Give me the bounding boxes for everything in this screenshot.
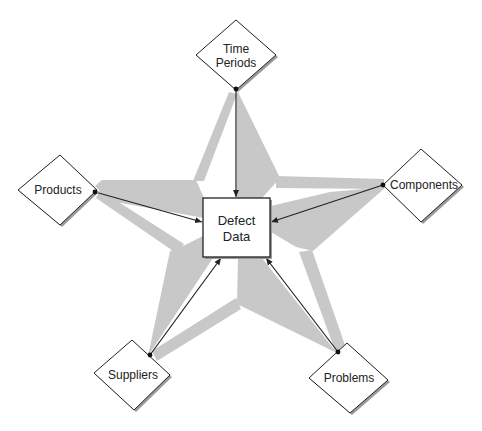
star-arm-right-wide — [271, 187, 386, 251]
defect-data-label-line2: Data — [223, 229, 251, 244]
products-dot — [93, 190, 98, 195]
time-periods-label-line2: Periods — [216, 56, 257, 70]
suppliers-dot — [148, 353, 153, 358]
star-arm-right-thin — [276, 176, 384, 189]
components-node[interactable]: Components — [383, 149, 464, 224]
star-arm-top-thin — [193, 92, 237, 181]
star-diagram: Defect Data Time Periods Components Prob… — [0, 0, 482, 431]
time-periods-label-line1: Time — [223, 42, 250, 56]
problems-node[interactable]: Problems — [309, 343, 390, 415]
problems-label: Problems — [324, 371, 375, 385]
components-label: Components — [390, 178, 458, 192]
suppliers-label: Suppliers — [108, 368, 158, 382]
problems-dot — [336, 350, 341, 355]
products-label: Products — [34, 183, 81, 197]
star-arm-left-wide — [95, 180, 204, 218]
products-node[interactable]: Products — [18, 155, 99, 227]
star-arm-top-wide — [237, 90, 280, 198]
components-dot — [381, 183, 386, 188]
time-periods-dot — [234, 87, 239, 92]
defect-data-label-line1: Defect — [218, 213, 256, 228]
defect-data-node[interactable]: Defect Data — [203, 198, 272, 259]
time-periods-node[interactable]: Time Periods — [196, 20, 278, 92]
